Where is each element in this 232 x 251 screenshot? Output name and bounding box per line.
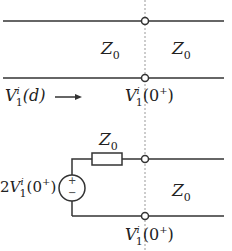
circuit-diagram	[0, 0, 232, 251]
impedance-subscript: 0	[184, 49, 191, 62]
top-junction-voltage-label: Vi1(0+)	[125, 88, 174, 104]
voltage-symbol: V	[5, 86, 17, 105]
source-multiplier: 2	[0, 178, 10, 196]
voltage-argument-close: )	[50, 178, 56, 196]
voltage-subscript: 1	[136, 96, 143, 109]
impedance-subscript: 0	[113, 49, 120, 62]
arrow-head-icon	[75, 94, 82, 100]
voltage-symbol: V	[125, 225, 137, 244]
junction-node-bottom-lower	[142, 213, 149, 220]
voltage-argument: (d)	[23, 86, 46, 105]
voltage-argument: (0	[27, 178, 42, 196]
incident-voltage-label: Vi1(d)	[5, 88, 46, 104]
voltage-argument: (0	[143, 86, 159, 105]
voltage-subscript: 1	[20, 187, 27, 200]
source-voltage-label: 2Vi1(0+)	[0, 180, 56, 195]
source-minus-sign: −	[68, 188, 76, 198]
voltage-argument-close: )	[168, 86, 174, 105]
voltage-argument-superscript: +	[159, 224, 167, 235]
voltage-symbol: V	[10, 178, 21, 196]
impedance-subscript: 0	[111, 140, 118, 153]
source-top-wire	[72, 159, 92, 175]
line-impedance-label: Z0	[172, 182, 191, 199]
voltage-argument-superscript: +	[159, 85, 167, 96]
voltage-symbol: V	[125, 86, 137, 105]
junction-node-top-upper	[142, 18, 149, 25]
impedance-symbol: Z	[172, 38, 184, 58]
top-right-impedance-label: Z0	[172, 40, 191, 57]
voltage-subscript: 1	[16, 96, 23, 109]
voltage-superscript: i	[17, 85, 20, 96]
voltage-superscript: i	[20, 176, 23, 187]
impedance-symbol: Z	[172, 180, 184, 200]
junction-node-top-lower	[142, 75, 149, 82]
voltage-argument-superscript: +	[42, 176, 50, 187]
voltage-argument: (0	[143, 225, 159, 244]
impedance-subscript: 0	[184, 191, 191, 204]
top-left-impedance-label: Z0	[101, 40, 120, 57]
junction-node-bottom-upper	[142, 156, 149, 163]
voltage-superscript: i	[137, 224, 140, 235]
series-impedance-label: Z0	[99, 131, 118, 148]
impedance-symbol: Z	[99, 129, 111, 149]
source-plus-sign: +	[68, 176, 76, 186]
voltage-superscript: i	[137, 85, 140, 96]
impedance-symbol: Z	[101, 38, 113, 58]
voltage-subscript: 1	[136, 235, 143, 248]
series-resistor	[92, 153, 122, 165]
voltage-argument-close: )	[168, 225, 174, 244]
bottom-junction-voltage-label: Vi1(0+)	[125, 227, 174, 243]
